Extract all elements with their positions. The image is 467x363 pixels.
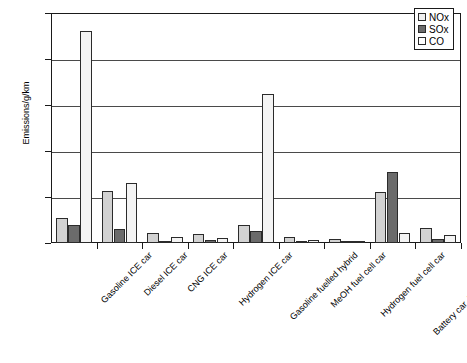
- x-tick-mark: [188, 243, 189, 249]
- bar-sox-3: [205, 240, 217, 243]
- legend-swatch-co: [418, 37, 426, 45]
- bar-co-1: [126, 183, 138, 243]
- bar-nox-2: [147, 233, 159, 243]
- bar-co-4: [262, 94, 274, 243]
- bar-co-7: [399, 233, 411, 243]
- legend-swatch-sox: [418, 25, 426, 33]
- bar-nox-3: [193, 234, 205, 243]
- bar-sox-7: [387, 172, 399, 243]
- x-tick-mark: [142, 243, 143, 249]
- bar-nox-1: [102, 191, 114, 243]
- bar-co-0: [80, 31, 92, 243]
- bar-sox-5: [296, 241, 308, 243]
- bar-nox-5: [284, 237, 296, 243]
- bars-layer: [51, 13, 461, 243]
- bar-sox-1: [114, 229, 126, 243]
- bar-co-8: [444, 235, 456, 243]
- bar-nox-7: [375, 192, 387, 243]
- x-tick-mark: [324, 243, 325, 249]
- bar-sox-0: [68, 225, 80, 243]
- bar-co-6: [353, 241, 365, 243]
- legend-item: NOx: [418, 11, 449, 23]
- legend-item: SOx: [418, 23, 449, 35]
- x-label-2: CNG ICE car: [186, 250, 230, 294]
- bar-nox-6: [329, 239, 341, 243]
- x-tick-mark: [461, 243, 462, 249]
- legend-label-nox: NOx: [429, 12, 449, 23]
- bar-sox-4: [250, 231, 262, 243]
- legend-label-co: CO: [429, 36, 444, 47]
- bar-nox-0: [56, 218, 68, 243]
- legend-label-sox: SOx: [429, 24, 448, 35]
- x-label-6: Hydrogen fuel cell car: [378, 250, 447, 319]
- legend-swatch-nox: [418, 13, 426, 21]
- bar-sox-6: [341, 241, 353, 243]
- y-tick-mark: [45, 243, 51, 244]
- y-axis-title: Emissions/g/km: [21, 43, 31, 183]
- bar-nox-8: [420, 228, 432, 243]
- bar-sox-2: [159, 241, 171, 243]
- legend-item: CO: [418, 35, 449, 47]
- x-tick-mark: [233, 243, 234, 249]
- x-label-5: MeOH fuel cell car: [329, 250, 388, 309]
- x-tick-mark: [279, 243, 280, 249]
- x-tick-mark: [415, 243, 416, 249]
- legend: NOx SOx CO: [414, 8, 454, 50]
- bar-sox-8: [432, 239, 444, 243]
- x-label-0: Gasoline ICE car: [99, 250, 154, 305]
- bar-co-3: [217, 238, 229, 243]
- bar-co-2: [171, 237, 183, 243]
- bar-co-5: [308, 240, 320, 243]
- x-tick-mark: [97, 243, 98, 249]
- emissions-bar-chart: Emissions/g/km 00.511.522.5 Gasoline ICE…: [0, 0, 467, 363]
- x-label-3: Hydrogen ICE car: [237, 250, 295, 308]
- x-tick-mark: [370, 243, 371, 249]
- bar-nox-4: [238, 225, 250, 243]
